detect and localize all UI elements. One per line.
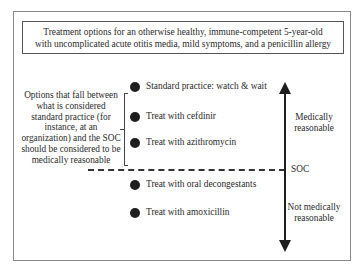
lower-zone-label: Not medically reasonable (286, 202, 342, 224)
option-label: Treat with amoxicillin (146, 207, 230, 218)
upper-zone-label-line: reasonable (290, 123, 338, 134)
left-note-line: standard practice (for (20, 112, 122, 123)
bullet-dot-icon (130, 180, 140, 190)
option-label: Treat with azithromycin (146, 137, 236, 148)
title-line-2: with uncomplicated acute otitis media, m… (35, 38, 331, 50)
bullet-dot-icon (130, 82, 140, 92)
lower-zone-label-line: Not medically (286, 202, 342, 213)
bullet-dot-icon (130, 138, 140, 148)
bullet-dot-icon (130, 112, 140, 122)
bracket-pointer-tick (120, 129, 124, 130)
left-note: Options that fall between what is consid… (20, 90, 122, 166)
option-label: Treat with cefdinir (146, 111, 216, 122)
bracket (124, 93, 125, 166)
upper-zone-label-line: Medically (290, 112, 338, 123)
title-box: Treatment options for an otherwise healt… (22, 21, 344, 54)
left-note-line: Options that fall between (20, 90, 122, 101)
left-note-line: medically reasonable (20, 155, 122, 166)
bracket-top-tick (124, 93, 128, 94)
upper-zone-label: Medically reasonable (290, 112, 338, 134)
option-label: Treat with oral decongestants (146, 179, 256, 190)
left-note-line: instance, at an (20, 122, 122, 133)
soc-label: SOC (291, 164, 309, 175)
left-note-line: organization) and the SOC (20, 133, 122, 144)
soc-dashed-line (88, 169, 285, 171)
arrow-down-icon (279, 240, 291, 252)
bracket-bottom-tick (124, 165, 128, 166)
title-line-1: Treatment options for an otherwise healt… (43, 26, 323, 38)
lower-zone-label-line: reasonable (286, 213, 342, 224)
left-note-line: should be considered to be (20, 144, 122, 155)
left-note-line: what is considered (20, 101, 122, 112)
option-label: Standard practice: watch & wait (146, 81, 267, 92)
bullet-dot-icon (130, 208, 140, 218)
